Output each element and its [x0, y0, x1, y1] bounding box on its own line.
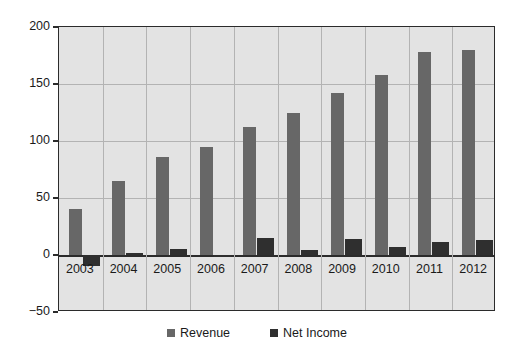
x-tick-label: 2004 [102, 263, 146, 276]
y-tick-label: 0 [0, 248, 50, 261]
y-tick-mark [53, 311, 58, 313]
bar-net-income [345, 239, 362, 255]
y-tick-label: −50 [0, 305, 50, 318]
zero-axis-line [59, 255, 494, 257]
bar-revenue [69, 209, 82, 255]
y-tick-label: 200 [0, 20, 50, 33]
x-tick-label: 2006 [189, 263, 233, 276]
chart-legend: RevenueNet Income [0, 327, 514, 340]
bar-revenue [112, 181, 125, 255]
bar-net-income [214, 255, 231, 257]
legend-swatch-icon [167, 329, 175, 337]
legend-label: Revenue [180, 327, 230, 340]
bar-net-income [432, 242, 449, 255]
bar-net-income [170, 249, 187, 255]
x-tick-label: 2003 [58, 263, 102, 276]
y-tick-label: 150 [0, 77, 50, 90]
bar-revenue [331, 93, 344, 255]
x-tick-label: 2005 [145, 263, 189, 276]
bar-revenue [418, 52, 431, 255]
bar-revenue [287, 113, 300, 256]
y-tick-label: 100 [0, 134, 50, 147]
legend-item: Revenue [167, 327, 230, 340]
legend-label: Net Income [283, 327, 347, 340]
x-tick-label: 2009 [320, 263, 364, 276]
bar-revenue [200, 147, 213, 255]
x-tick-label: 2012 [451, 263, 495, 276]
bar-revenue [243, 127, 256, 255]
bar-revenue [156, 157, 169, 255]
legend-swatch-icon [270, 329, 278, 337]
x-tick-label: 2010 [364, 263, 408, 276]
bar-net-income [476, 240, 493, 255]
bar-revenue [375, 75, 388, 255]
x-tick-label: 2007 [233, 263, 277, 276]
bar-chart: 200150100500−50 200320042005200620072008… [0, 0, 514, 357]
bar-net-income [301, 250, 318, 255]
y-tick-label: 50 [0, 191, 50, 204]
x-tick-label: 2011 [408, 263, 452, 276]
bar-revenue [462, 50, 475, 255]
bar-net-income [126, 253, 143, 255]
legend-item: Net Income [270, 327, 347, 340]
bar-net-income [389, 247, 406, 255]
bar-net-income [257, 238, 274, 255]
x-tick-label: 2008 [277, 263, 321, 276]
